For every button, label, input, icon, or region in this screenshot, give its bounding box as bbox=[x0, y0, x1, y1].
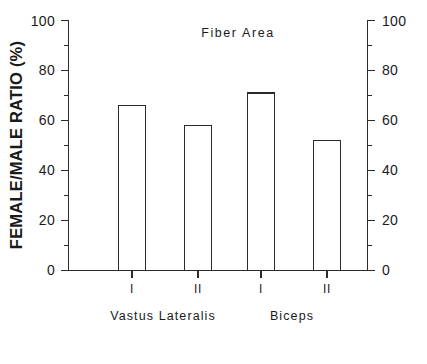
right-tick-label-100: 100 bbox=[382, 13, 406, 29]
bar-biceps-type-I bbox=[248, 93, 275, 271]
y-axis-title: FEMALE/MALE RATIO (%) bbox=[7, 41, 25, 249]
x-axis-ticks bbox=[132, 271, 327, 279]
right-tick-label-20: 20 bbox=[382, 212, 398, 228]
left-tick-label-40: 40 bbox=[39, 162, 55, 178]
right-tick-label-0: 0 bbox=[382, 262, 390, 278]
left-tick-label-100: 100 bbox=[31, 13, 55, 29]
chart-title: Fiber Area bbox=[201, 26, 275, 40]
bar-biceps-type-II bbox=[314, 141, 341, 271]
chart-figure: FEMALE/MALE RATIO (%) Fiber Area bbox=[0, 0, 427, 364]
right-tick-label-80: 80 bbox=[382, 62, 398, 78]
left-tick-label-60: 60 bbox=[39, 112, 55, 128]
group-label-vastus-lateralis: Vastus Lateralis bbox=[110, 309, 216, 323]
right-tick-label-60: 60 bbox=[382, 112, 398, 128]
x-tick-label-1: I bbox=[130, 282, 134, 296]
left-tick-label-80: 80 bbox=[39, 62, 55, 78]
group-label-biceps: Biceps bbox=[270, 309, 314, 323]
x-tick-label-3: I bbox=[259, 282, 263, 296]
left-tick-label-20: 20 bbox=[39, 212, 55, 228]
left-tick-label-0: 0 bbox=[47, 262, 55, 278]
x-tick-label-4: II bbox=[323, 282, 331, 296]
right-tick-label-40: 40 bbox=[382, 162, 398, 178]
x-tick-label-2: II bbox=[194, 282, 202, 296]
bar-vastus-lateralis-type-I bbox=[119, 106, 146, 271]
chart-canvas: FEMALE/MALE RATIO (%) Fiber Area bbox=[0, 0, 427, 364]
bar-vastus-lateralis-type-II bbox=[185, 126, 212, 271]
